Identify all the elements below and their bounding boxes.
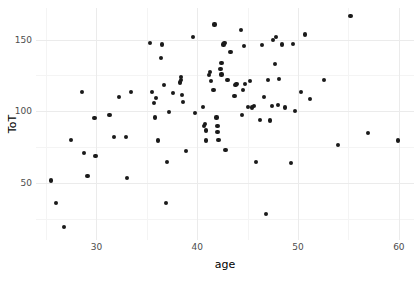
data-point	[156, 138, 160, 142]
data-point	[273, 62, 277, 66]
data-point	[254, 160, 258, 164]
data-point	[150, 90, 154, 94]
x-tick-label: 60	[393, 242, 404, 252]
data-point	[258, 118, 262, 122]
data-point	[212, 22, 216, 26]
x-tick-label: 50	[292, 242, 303, 252]
data-point	[219, 72, 223, 76]
data-point	[303, 32, 307, 36]
minor-gridline-vertical	[248, 8, 249, 240]
data-point	[219, 61, 223, 65]
x-axis-ticks: 30405060	[36, 242, 414, 256]
data-point	[153, 115, 157, 119]
data-point	[280, 42, 284, 46]
data-point	[162, 83, 166, 87]
minor-gridline-horizontal	[36, 75, 414, 76]
data-point	[148, 41, 152, 45]
data-point	[171, 91, 175, 95]
data-point	[80, 90, 84, 94]
data-point	[262, 95, 266, 99]
minor-gridline-horizontal	[36, 219, 414, 220]
data-point	[239, 28, 243, 32]
data-point	[69, 138, 73, 142]
data-point	[112, 135, 116, 139]
data-point	[232, 94, 236, 98]
gridline-vertical	[197, 8, 198, 240]
gridline-vertical	[399, 8, 400, 240]
data-point	[234, 82, 238, 86]
data-point	[299, 90, 303, 94]
data-point	[223, 148, 227, 152]
data-point	[308, 97, 312, 101]
data-point	[264, 212, 268, 216]
data-point	[218, 67, 222, 71]
minor-gridline-vertical	[46, 8, 47, 240]
scatter-plot: 50100150 30405060 age ToT	[0, 0, 418, 285]
data-point	[203, 122, 207, 126]
gridline-vertical	[96, 8, 97, 240]
y-tick-label: 50	[21, 178, 32, 188]
data-point	[396, 138, 400, 142]
data-point	[152, 101, 156, 105]
data-point	[124, 135, 128, 139]
data-point	[241, 88, 245, 92]
data-point	[164, 201, 168, 205]
data-point	[260, 43, 264, 47]
data-point	[180, 93, 184, 97]
data-point	[211, 88, 215, 92]
data-point	[222, 41, 226, 45]
data-point	[243, 82, 247, 86]
data-point	[277, 77, 281, 81]
data-point	[225, 78, 229, 82]
data-point	[167, 110, 171, 114]
data-point	[215, 124, 219, 128]
data-point	[268, 118, 272, 122]
x-tick-label: 30	[91, 242, 102, 252]
data-point	[248, 79, 252, 83]
data-point	[82, 151, 86, 155]
data-point	[204, 138, 208, 142]
plot-panel	[36, 8, 414, 240]
data-point	[92, 116, 96, 120]
data-point	[366, 131, 370, 135]
data-point	[266, 78, 270, 82]
gridline-horizontal	[36, 183, 414, 184]
data-point	[154, 96, 158, 100]
data-point	[159, 56, 163, 60]
data-point	[129, 90, 133, 94]
gridline-vertical	[298, 8, 299, 240]
data-point	[291, 42, 295, 46]
data-point	[93, 154, 97, 158]
data-point	[179, 78, 183, 82]
data-point	[204, 128, 208, 132]
data-point	[228, 50, 232, 54]
data-point	[293, 109, 297, 113]
data-point	[181, 100, 185, 104]
data-point	[209, 79, 213, 83]
data-point	[252, 104, 256, 108]
data-point	[322, 78, 326, 82]
data-point	[348, 14, 352, 18]
data-point	[117, 95, 121, 99]
data-point	[184, 149, 188, 153]
x-tick-label: 40	[192, 242, 203, 252]
data-point	[276, 103, 280, 107]
data-point	[214, 115, 218, 119]
data-point	[54, 201, 58, 205]
data-point	[215, 130, 219, 134]
data-point	[125, 176, 129, 180]
data-point	[107, 113, 111, 117]
data-point	[289, 161, 293, 165]
minor-gridline-vertical	[348, 8, 349, 240]
gridline-horizontal	[36, 111, 414, 112]
data-point	[165, 160, 169, 164]
data-point	[283, 105, 287, 109]
data-point	[208, 70, 212, 74]
data-point	[270, 104, 274, 108]
data-point	[49, 178, 53, 182]
data-point	[85, 174, 89, 178]
data-point	[240, 113, 244, 117]
data-point	[242, 44, 246, 48]
y-axis-title: ToT	[6, 8, 20, 240]
data-point	[207, 73, 211, 77]
